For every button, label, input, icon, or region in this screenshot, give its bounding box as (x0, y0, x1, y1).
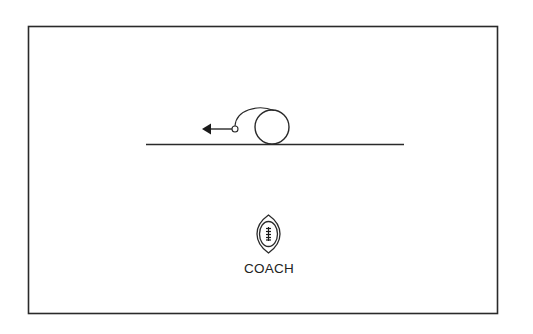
diagram-canvas (0, 0, 533, 334)
arrow-left-icon (202, 124, 211, 135)
football-icon (257, 215, 280, 253)
route-start-marker (232, 126, 238, 132)
coach-label: COACH (219, 261, 319, 276)
player-circle (255, 110, 289, 144)
play-diagram: COACH (0, 0, 533, 334)
